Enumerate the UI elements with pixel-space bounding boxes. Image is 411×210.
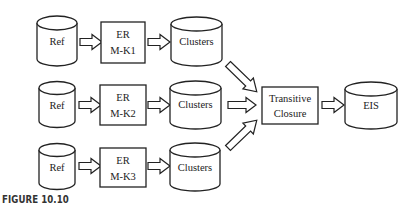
er-label: ER <box>116 29 129 40</box>
closure-label: Closure <box>274 108 307 119</box>
arrow-right-icon <box>80 35 102 50</box>
row-1: Ref ER M-K1 Clusters <box>37 16 222 66</box>
clusters-label: Clusters <box>178 162 212 173</box>
row-3: Ref ER M-K3 Clusters <box>39 143 220 191</box>
transitive-label: Transitive <box>269 93 312 104</box>
er-method-label: M-K3 <box>110 171 136 182</box>
clusters-database-icon: Clusters <box>170 143 220 191</box>
clusters-label: Clusters <box>179 36 213 47</box>
ref-database-icon: Ref <box>39 144 75 190</box>
arrow-right-icon <box>79 98 101 113</box>
eis-label: EIS <box>363 100 379 111</box>
clusters-label: Clusters <box>178 99 212 110</box>
er-process-box: ER M-K1 <box>101 22 145 63</box>
ref-database-icon: Ref <box>39 82 75 128</box>
er-process-box: ER M-K2 <box>100 85 146 125</box>
transitive-closure-box: Transitive Closure <box>262 87 318 124</box>
clusters-database-icon: Clusters <box>171 17 222 66</box>
er-method-label: M-K2 <box>110 108 136 119</box>
arrow-right-icon <box>228 98 256 113</box>
er-method-label: M-K1 <box>110 45 136 56</box>
ref-label: Ref <box>49 162 65 173</box>
er-label: ER <box>116 92 129 103</box>
er-process-box: ER M-K3 <box>100 148 146 187</box>
arrow-right-icon <box>79 159 101 174</box>
clusters-database-icon: Clusters <box>170 81 221 129</box>
arrow-right-icon <box>148 35 170 50</box>
arrow-diagonal-up-icon <box>223 115 262 154</box>
arrow-diagonal-down-icon <box>223 59 262 98</box>
er-pipeline-diagram: Ref ER M-K1 Clusters Ref ER M-K2 <box>0 0 411 210</box>
ref-label: Ref <box>49 36 65 47</box>
eis-database-icon: EIS <box>345 82 397 129</box>
arrow-right-icon <box>322 98 344 113</box>
er-label: ER <box>116 155 129 166</box>
ref-label: Ref <box>49 100 65 111</box>
ref-database-icon: Ref <box>37 16 77 66</box>
figure-caption: FIGURE 10.10 <box>2 193 69 205</box>
row-2: Ref ER M-K2 Clusters <box>39 81 221 129</box>
arrow-right-icon <box>148 98 170 113</box>
merge-arrows <box>223 59 262 154</box>
arrow-right-icon <box>148 159 170 174</box>
